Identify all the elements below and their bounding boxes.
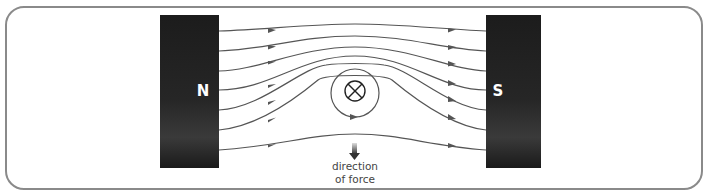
force-arrow-shaft [352,143,357,154]
magnet-south: S [486,15,541,168]
force-caption-line1: direction [332,160,378,172]
magnet-north: N [160,15,219,168]
north-pole-label: N [197,82,210,100]
south-pole-label: S [493,82,504,100]
force-caption-line2: of force [335,173,375,185]
north-magnet-body [160,15,219,168]
magnetic-field-diagram: N S direction of force [0,0,709,194]
